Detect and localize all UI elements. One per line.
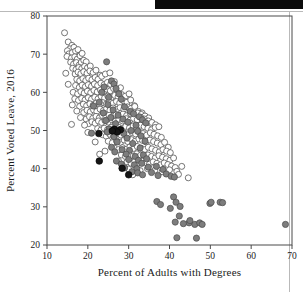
data-point-gray	[125, 119, 131, 125]
data-point-gray	[88, 130, 94, 136]
data-point-open	[107, 70, 113, 76]
data-point-gray	[219, 200, 225, 206]
data-point-black	[96, 130, 103, 137]
data-point-gray	[167, 205, 173, 211]
data-point-black	[109, 128, 116, 135]
data-point-gray	[137, 145, 143, 151]
data-point-open	[128, 97, 134, 103]
y-tick-label: 40	[31, 164, 41, 174]
data-point-open	[156, 124, 162, 130]
y-axis-title: Percent Voted Leave, 2016	[4, 69, 16, 192]
data-point-black	[96, 158, 103, 165]
data-point-open	[69, 102, 75, 108]
data-point-gray	[114, 139, 120, 145]
data-point-black	[125, 171, 132, 178]
data-point-gray	[128, 127, 134, 133]
data-point-gray	[104, 59, 110, 65]
data-point-gray	[199, 221, 205, 227]
data-point-open	[185, 175, 191, 181]
data-point-gray	[105, 101, 111, 107]
data-point-gray	[208, 199, 214, 205]
x-tick-label: 50	[206, 251, 216, 261]
data-point-open	[179, 163, 185, 169]
data-point-open	[65, 81, 71, 87]
data-point-gray	[100, 110, 106, 116]
data-point-gray	[130, 111, 136, 117]
data-point-gray	[282, 221, 288, 227]
data-point-open	[126, 91, 132, 97]
data-point-gray	[110, 107, 116, 113]
data-point-open	[74, 108, 80, 114]
data-point-gray	[172, 219, 178, 225]
data-point-gray	[176, 213, 182, 219]
data-point-open	[82, 122, 88, 128]
x-axis-ticks	[47, 245, 292, 249]
data-point-gray	[193, 235, 199, 241]
x-tick-label: 30	[124, 251, 134, 261]
data-point-gray	[142, 138, 148, 144]
data-point-gray	[96, 99, 102, 105]
data-point-black	[119, 165, 126, 172]
data-point-gray	[99, 89, 105, 95]
data-point-open	[77, 115, 83, 121]
data-point-gray	[106, 94, 112, 100]
x-tick-label: 40	[165, 251, 175, 261]
y-axis-ticks	[43, 16, 47, 245]
data-point-gray	[144, 156, 150, 162]
data-point-open	[92, 139, 98, 145]
data-point-gray	[174, 235, 180, 241]
data-point-gray	[126, 156, 132, 162]
y-tick-label: 50	[31, 126, 41, 136]
y-tick-label: 20	[31, 240, 41, 250]
data-point-open	[79, 50, 85, 56]
data-point-gray	[133, 122, 139, 128]
data-point-gray	[153, 163, 159, 169]
data-point-gray	[177, 203, 183, 209]
data-point-gray	[113, 121, 119, 127]
data-point-gray	[90, 103, 96, 109]
data-point-gray	[139, 160, 145, 166]
data-point-open	[167, 150, 173, 156]
data-point-open	[63, 70, 69, 76]
data-point-gray	[180, 221, 186, 227]
data-point-open	[93, 67, 99, 73]
data-point-gray	[157, 201, 163, 207]
x-tick-label: 60	[246, 251, 256, 261]
data-point-gray	[103, 117, 109, 123]
data-point-open	[69, 121, 75, 127]
x-tick-label: 20	[83, 251, 93, 261]
y-axis-tick-labels: 20304050607080	[31, 11, 41, 250]
y-tick-label: 30	[31, 202, 41, 212]
data-point-gray	[130, 140, 136, 146]
data-point-gray	[187, 217, 193, 223]
x-tick-label: 70	[287, 251, 297, 261]
data-point-gray	[139, 172, 145, 178]
data-point-gray	[124, 135, 130, 141]
data-point-gray	[171, 174, 177, 180]
y-tick-label: 80	[31, 11, 41, 21]
scatter-plot: 10203040506070 20304050607080 Percent of…	[0, 0, 303, 292]
data-point-gray	[121, 104, 127, 110]
data-point-gray	[148, 169, 154, 175]
y-tick-label: 70	[31, 50, 41, 60]
data-point-gray	[118, 96, 124, 102]
data-point-gray	[112, 149, 118, 155]
y-tick-label: 60	[31, 88, 41, 98]
data-point-gray	[143, 120, 149, 126]
data-point-gray	[138, 133, 144, 139]
x-axis-title: Percent of Adults with Degrees	[98, 266, 241, 278]
data-point-open	[62, 30, 68, 36]
data-point-open	[171, 155, 177, 161]
figure-container: 10203040506070 20304050607080 Percent of…	[0, 0, 303, 292]
x-tick-label: 10	[42, 251, 52, 261]
x-axis-tick-labels: 10203040506070	[42, 251, 297, 261]
data-point-open	[97, 151, 103, 157]
data-point-gray	[155, 172, 161, 178]
